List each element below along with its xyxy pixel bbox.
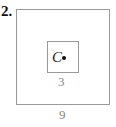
problem-number: 2. — [1, 3, 12, 20]
point-c-dot — [62, 56, 66, 60]
inner-side-label: 3 — [58, 74, 65, 90]
point-c-label: C — [52, 49, 62, 66]
outer-side-label: 9 — [59, 107, 66, 123]
